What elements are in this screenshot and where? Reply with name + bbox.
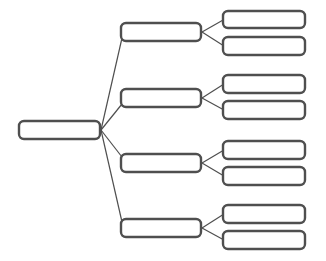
- diagram-nodes: [19, 11, 305, 249]
- branch-node-4-box[interactable]: [121, 219, 201, 237]
- leaf-node-1-2-box[interactable]: [223, 37, 305, 55]
- leaf-node-3-1[interactable]: [223, 141, 305, 159]
- branch-node-1[interactable]: [121, 23, 201, 41]
- root-node[interactable]: [19, 121, 100, 139]
- leaf-node-3-2[interactable]: [223, 167, 305, 185]
- leaf-node-1-1-box[interactable]: [223, 11, 305, 28]
- leaf-node-3-1-box[interactable]: [223, 141, 305, 159]
- edge-branch-3-to-leaf-1: [202, 150, 224, 163]
- edge-branch-2-to-leaf-2: [202, 98, 224, 110]
- branch-node-3-box[interactable]: [121, 154, 201, 172]
- edge-branch-1-to-leaf-1: [202, 20, 224, 33]
- branch-node-2[interactable]: [121, 89, 201, 107]
- leaf-node-4-1-box[interactable]: [223, 205, 305, 223]
- leaf-node-3-2-box[interactable]: [223, 167, 305, 185]
- leaf-node-4-2[interactable]: [223, 231, 305, 249]
- leaf-node-2-1[interactable]: [223, 75, 305, 93]
- root-node-box[interactable]: [19, 121, 100, 139]
- leaf-node-2-2[interactable]: [223, 101, 305, 119]
- branch-node-3[interactable]: [121, 154, 201, 172]
- connector-lines: [101, 20, 224, 241]
- branch-node-2-box[interactable]: [121, 89, 201, 107]
- edge-branch-3-to-leaf-2: [202, 163, 224, 176]
- branch-node-1-box[interactable]: [121, 23, 201, 41]
- leaf-node-4-1[interactable]: [223, 205, 305, 223]
- leaf-node-1-1[interactable]: [223, 11, 305, 28]
- edge-branch-4-to-leaf-2: [202, 228, 224, 240]
- leaf-node-4-2-box[interactable]: [223, 231, 305, 249]
- edge-branch-1-to-leaf-2: [202, 32, 224, 46]
- leaf-node-2-1-box[interactable]: [223, 75, 305, 93]
- tree-diagram: [0, 0, 326, 261]
- branch-node-4[interactable]: [121, 219, 201, 237]
- edge-branch-2-to-leaf-1: [202, 84, 224, 98]
- edge-branch-4-to-leaf-1: [202, 214, 224, 228]
- leaf-node-2-2-box[interactable]: [223, 101, 305, 119]
- leaf-node-1-2[interactable]: [223, 37, 305, 55]
